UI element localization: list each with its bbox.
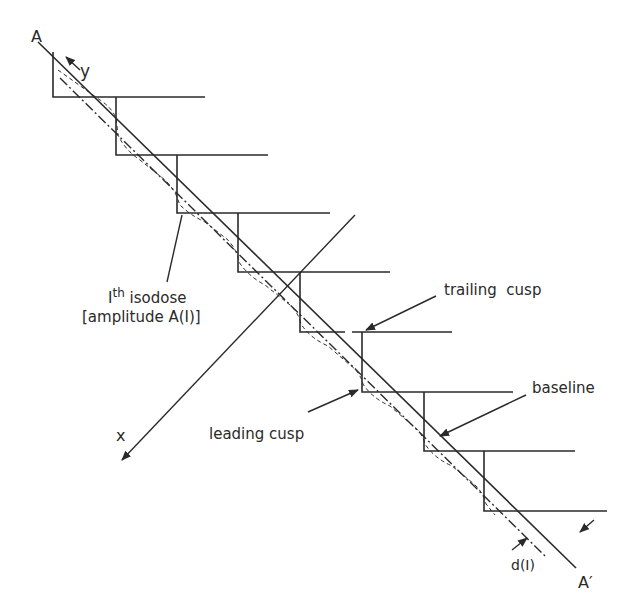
- y-axis-arrow: [66, 57, 80, 70]
- baseline-arrow: [440, 395, 526, 436]
- isodose-word: isodose: [130, 289, 187, 307]
- step-3: [177, 155, 330, 213]
- label-A-prime: A′: [578, 575, 593, 591]
- isodose-leader: [167, 215, 182, 282]
- label-A: A: [31, 29, 42, 45]
- step-4: [238, 213, 390, 272]
- label-baseline: baseline: [532, 381, 595, 396]
- step-6: [362, 332, 513, 392]
- isodose-staircase-diagram: [0, 0, 633, 612]
- step-2: [116, 97, 268, 155]
- label-leading-cusp: leading cusp: [209, 427, 304, 442]
- step-1: [53, 52, 205, 97]
- step-8: [484, 451, 607, 511]
- leading-cusp-arrow: [308, 390, 358, 412]
- trailing-cusp-arrow: [366, 296, 436, 330]
- step-5: [300, 272, 452, 332]
- label-x-axis: x: [116, 428, 125, 444]
- d-I-arrow-upper: [580, 520, 594, 532]
- d-I-arrow-lower: [512, 538, 527, 550]
- label-isodose-amplitude: [amplitude A(I)]: [82, 310, 201, 325]
- isodose-superscript: th: [112, 286, 124, 300]
- label-d-I: d(I): [511, 558, 535, 572]
- label-trailing-cusp: trailing cusp: [444, 283, 541, 298]
- label-y-axis: y: [80, 63, 90, 80]
- label-isodose: Ith isodose: [108, 287, 186, 306]
